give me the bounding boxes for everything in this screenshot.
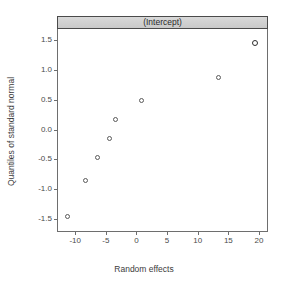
y-axis-tick-label: 0.5 [41,96,52,104]
x-axis-tick-label: 0 [134,237,138,245]
y-axis-tick-label: -0.5 [38,155,52,163]
x-axis-tick-label: 10 [193,237,202,245]
x-axis-tick [136,231,137,235]
x-axis-tick [167,231,168,235]
y-axis-tick-label: 1.0 [41,66,52,74]
data-point [65,214,70,219]
y-axis-tick-label: -1.5 [38,215,52,223]
data-point [83,178,88,183]
y-axis-tick [54,189,58,190]
strip-label: (Intercept) [143,18,182,27]
x-axis-tick [259,231,260,235]
y-axis-tick [54,219,58,220]
y-axis-tick [54,100,58,101]
x-axis-tick-label: 5 [165,237,169,245]
data-point [252,40,258,46]
data-point [216,75,221,80]
data-point [139,98,144,103]
y-axis-tick [54,40,58,41]
plot-panel: 1.51.00.50.0-0.5-1.0-1.5-10-505101520 [57,29,268,232]
x-axis-tick [228,231,229,235]
data-point [113,117,118,122]
panel-strip-header: (Intercept) [57,16,268,29]
x-axis-tick-label: 15 [224,237,233,245]
x-axis-tick-label: -5 [102,237,109,245]
y-axis-tick [54,70,58,71]
data-point [95,155,100,160]
plot-area: 1.51.00.50.0-0.5-1.0-1.5-10-505101520 [58,29,267,231]
data-point [107,136,112,141]
qq-plot-figure: (Intercept) 1.51.00.50.0-0.5-1.0-1.5-10-… [0,0,288,288]
x-axis-tick-label: -10 [69,237,81,245]
y-axis-tick-label: 0.0 [41,126,52,134]
x-axis-tick [198,231,199,235]
y-axis-tick [54,159,58,160]
y-axis-tick [54,130,58,131]
x-axis-tick [75,231,76,235]
y-axis-title: Quantiles of standard normal [6,30,20,233]
x-axis-title: Random effects [0,264,288,274]
x-axis-tick-label: 20 [255,237,264,245]
x-axis-tick [106,231,107,235]
y-axis-tick-label: -1.0 [38,185,52,193]
y-axis-tick-label: 1.5 [41,36,52,44]
